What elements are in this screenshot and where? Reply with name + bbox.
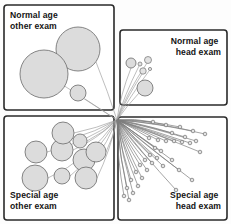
cluster-node (161, 164, 165, 168)
cluster-node (183, 135, 187, 139)
cluster-node (20, 50, 68, 98)
panel-label-special-age-head-exam: Special age head exam (170, 190, 221, 211)
cluster-node (129, 178, 133, 182)
cluster-node (145, 168, 149, 172)
cluster-node (127, 198, 131, 202)
cluster-node (164, 123, 168, 127)
cluster-node (164, 139, 168, 143)
cluster-node (190, 178, 194, 182)
cluster-node (54, 168, 70, 184)
cluster-node (198, 150, 202, 154)
cluster-node (151, 120, 155, 124)
cluster-node (177, 168, 181, 172)
cluster-node (140, 68, 146, 74)
cluster-node (170, 131, 174, 135)
cluster-node (140, 176, 144, 180)
cluster-node (134, 170, 138, 174)
cluster-node (145, 57, 152, 64)
panel-label-normal-age-head-exam: Normal age head exam (171, 36, 222, 57)
cluster-node (203, 132, 207, 136)
panel-label-normal-age-other-exam: Normal age other exam (10, 10, 60, 31)
cluster-node (172, 139, 176, 143)
cluster-node (148, 153, 152, 157)
cluster-node (156, 138, 160, 142)
cluster-node (143, 158, 147, 162)
cluster-node (125, 186, 129, 190)
cluster-node (159, 149, 163, 153)
panel-label-special-age-other-exam: Special age other exam (10, 190, 61, 211)
cluster-node (75, 167, 97, 189)
cluster-node (25, 141, 47, 163)
cluster-node (86, 142, 106, 162)
cluster-node (191, 129, 195, 133)
cluster-node (52, 122, 74, 144)
cluster-node (153, 146, 157, 150)
cluster-node (138, 62, 142, 66)
cluster-node (70, 85, 86, 101)
cluster-node (148, 67, 151, 70)
cluster-node (150, 161, 154, 165)
cluster-node (188, 141, 192, 145)
cluster-node (131, 191, 135, 195)
cluster-node (155, 156, 159, 160)
cluster-node (194, 139, 198, 143)
cluster-node (122, 194, 126, 198)
cluster-node (73, 134, 87, 148)
diagram-canvas: Normal age other exam Normal age head ex… (0, 0, 231, 224)
cluster-node (138, 163, 142, 167)
cluster-node (137, 80, 153, 96)
cluster-node (147, 136, 151, 140)
cluster-node (136, 184, 140, 188)
cluster-diagram-figure: Normal age other exam Normal age head ex… (0, 0, 231, 224)
cluster-node (170, 158, 174, 162)
cluster-node (180, 140, 184, 144)
cluster-node (126, 58, 136, 68)
cluster-node (22, 165, 48, 191)
cluster-node (178, 125, 182, 129)
